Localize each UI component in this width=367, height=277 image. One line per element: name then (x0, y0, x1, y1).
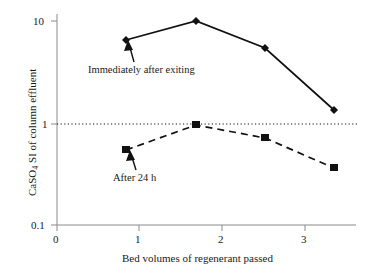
y-axis-title-suffix: SI of column effluent (26, 69, 38, 166)
annotation-label-after-24h: After 24 h (113, 172, 156, 183)
y-tick-label-1: 1 (42, 118, 48, 130)
x-tick-label-3: 3 (301, 233, 307, 245)
x-axis-title: Bed volumes of regenerant passed (122, 252, 273, 264)
y-tick-label-10: 10 (33, 15, 44, 27)
annotation-label-immediately-after-exiting: Immediately after exiting (88, 64, 195, 75)
series-markers-after-24h (122, 121, 338, 171)
chart-figure: 10 1 0.1 0 1 2 3 CaSO4 SI of column effl… (0, 0, 367, 277)
x-tick-label-0: 0 (53, 233, 59, 245)
x-tick-label-1: 1 (135, 233, 141, 245)
y-tick-label-0-1: 0.1 (31, 219, 45, 231)
y-axis-title-subscript: 4 (31, 166, 40, 170)
y-axis-title-prefix: CaSO (26, 170, 38, 196)
series-line-after-24h (126, 125, 334, 168)
y-axis-title: CaSO4 SI of column effluent (26, 69, 40, 196)
x-tick-label-2: 2 (218, 233, 224, 245)
